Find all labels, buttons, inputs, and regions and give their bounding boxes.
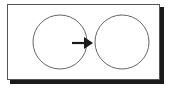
arrow-icon <box>72 37 93 49</box>
diagram-canvas <box>0 0 170 89</box>
right-circle-node <box>95 15 149 69</box>
